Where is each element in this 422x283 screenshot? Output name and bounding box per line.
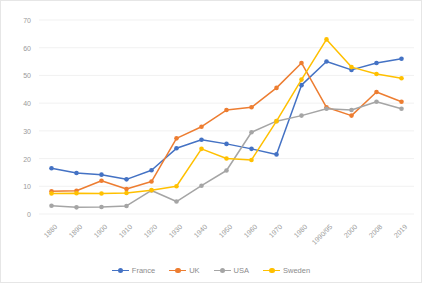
data-point — [149, 168, 154, 173]
series-line — [52, 102, 402, 208]
data-point — [124, 191, 129, 196]
data-point — [374, 61, 379, 66]
data-point — [74, 171, 79, 176]
data-point — [74, 191, 79, 196]
legend-swatch-icon — [214, 267, 231, 274]
data-point — [149, 188, 154, 193]
data-point — [174, 146, 179, 151]
legend-swatch-icon — [263, 267, 280, 274]
data-point — [249, 130, 254, 135]
data-point — [349, 113, 354, 118]
data-point — [249, 147, 254, 152]
data-point — [399, 99, 404, 104]
data-point — [99, 191, 104, 196]
data-point — [374, 90, 379, 95]
data-point — [349, 65, 354, 70]
data-point — [199, 124, 204, 129]
data-point — [274, 152, 279, 157]
data-point — [374, 72, 379, 77]
data-point — [149, 179, 154, 184]
data-point — [349, 108, 354, 113]
data-point — [224, 142, 229, 147]
legend-item-label: France — [132, 266, 155, 275]
data-point — [49, 191, 54, 196]
data-point — [224, 168, 229, 173]
data-point — [399, 106, 404, 111]
legend-item-label: USA — [234, 266, 249, 275]
data-point — [324, 59, 329, 64]
plot-area — [1, 1, 422, 283]
data-point — [224, 108, 229, 113]
data-point — [174, 184, 179, 189]
data-point — [299, 61, 304, 66]
data-point — [124, 204, 129, 209]
data-point — [374, 99, 379, 104]
legend-item-france[interactable]: France — [112, 266, 155, 275]
data-point — [399, 57, 404, 62]
data-point — [199, 183, 204, 188]
data-point — [49, 203, 54, 208]
data-point — [324, 106, 329, 111]
legend-swatch-icon — [169, 267, 186, 274]
legend-item-sweden[interactable]: Sweden — [263, 266, 310, 275]
series-line — [52, 59, 402, 180]
chart-legend: FranceUKUSASweden — [1, 266, 421, 275]
data-point — [199, 147, 204, 152]
legend-item-uk[interactable]: UK — [169, 266, 199, 275]
data-point — [224, 156, 229, 161]
data-point — [174, 136, 179, 141]
data-point — [174, 199, 179, 204]
data-point — [399, 76, 404, 81]
data-point — [99, 178, 104, 183]
data-point — [299, 77, 304, 82]
legend-swatch-icon — [112, 267, 129, 274]
data-point — [74, 205, 79, 210]
data-point — [99, 205, 104, 210]
data-point — [99, 172, 104, 177]
data-point — [249, 105, 254, 110]
data-point — [324, 37, 329, 42]
data-point — [49, 166, 54, 171]
data-point — [199, 137, 204, 142]
data-point — [299, 113, 304, 118]
data-point — [249, 158, 254, 163]
data-point — [124, 177, 129, 182]
data-point — [274, 119, 279, 124]
legend-item-usa[interactable]: USA — [214, 266, 249, 275]
legend-item-label: UK — [189, 266, 199, 275]
data-point — [274, 86, 279, 91]
legend-item-label: Sweden — [283, 266, 310, 275]
line-chart: 010203040506070 188018901900191019201930… — [0, 0, 422, 283]
